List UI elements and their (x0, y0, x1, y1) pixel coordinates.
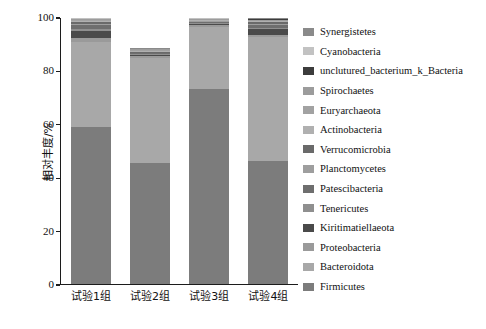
legend-swatch-icon (303, 126, 314, 134)
legend-item-label: Cyanobacteria (320, 46, 381, 57)
legend-swatch-icon (303, 28, 314, 36)
y-tick-label: 20 (0, 226, 54, 237)
legend-item[interactable]: Firmicutes (303, 277, 483, 297)
y-tick-mark (56, 178, 60, 179)
legend-swatch-icon (303, 224, 314, 232)
legend-item-label: unclutured_bacterium_k_Bacteria (320, 65, 463, 76)
legend-item-label: Euryarchaeota (320, 105, 381, 116)
bar-segment (71, 31, 111, 38)
legend-item-label: Bacteroidota (320, 261, 374, 272)
bar-segment (189, 89, 229, 284)
bar-segment (71, 127, 111, 284)
legend-item-label: Spirochaetes (320, 85, 374, 96)
y-tick-label: 80 (0, 65, 54, 76)
bar-segment (71, 42, 111, 128)
legend-item-label: Patescibacteria (320, 183, 383, 194)
bar-column (248, 18, 288, 284)
x-axis-label: 试验3组 (183, 287, 235, 303)
chart-root: 020406080100 相对丰度/% 试验1组试验2组试验3组试验4组 Syn… (0, 0, 486, 329)
legend-item-label: Tenericutes (320, 203, 368, 214)
stacked-bars (61, 18, 298, 284)
legend-swatch-icon (303, 263, 314, 271)
legend-item[interactable]: Spirochaetes (303, 81, 483, 101)
legend-item-label: Verrucomicrobia (320, 144, 391, 155)
legend-swatch-icon (303, 204, 314, 212)
legend-item-label: Actinobacteria (320, 124, 382, 135)
legend-item[interactable]: Tenericutes (303, 198, 483, 218)
y-tick-mark (56, 284, 60, 285)
bar-segment (130, 163, 170, 284)
legend-item[interactable]: Kiritimatiellaeota (303, 218, 483, 238)
legend-item[interactable]: Actinobacteria (303, 120, 483, 140)
legend-item-label: Firmicutes (320, 281, 365, 292)
bar-column (71, 18, 111, 284)
plot-area: 020406080100 相对丰度/% (60, 18, 298, 285)
legend-swatch-icon (303, 145, 314, 153)
y-tick-mark (56, 231, 60, 232)
legend-item[interactable]: Planctomycetes (303, 159, 483, 179)
legend-item[interactable]: Bacteroidota (303, 257, 483, 277)
legend-item[interactable]: Verrucomicrobia (303, 140, 483, 160)
legend-item-label: Synergistetes (320, 26, 376, 37)
legend-item[interactable]: Synergistetes (303, 22, 483, 42)
legend-item-label: Planctomycetes (320, 163, 386, 174)
x-axis-label: 试验4组 (242, 287, 294, 303)
legend-swatch-icon (303, 185, 314, 193)
y-tick-mark (56, 71, 60, 72)
bar-segment (130, 58, 170, 163)
legend-swatch-icon (303, 283, 314, 291)
legend-swatch-icon (303, 165, 314, 173)
legend-item-label: Proteobacteria (320, 242, 381, 253)
legend-item[interactable]: Cyanobacteria (303, 42, 483, 62)
y-axis-label: 相对丰度/% (39, 122, 55, 180)
legend-swatch-icon (303, 67, 314, 75)
legend-item[interactable]: Euryarchaeota (303, 100, 483, 120)
legend-swatch-icon (303, 47, 314, 55)
x-axis-labels: 试验1组试验2组试验3组试验4组 (61, 287, 298, 303)
y-tick-mark (56, 17, 60, 18)
bar-column (130, 18, 170, 284)
bar-column (189, 18, 229, 284)
legend-swatch-icon (303, 87, 314, 95)
bar-segment (189, 27, 229, 89)
x-axis-label: 试验2组 (124, 287, 176, 303)
legend-swatch-icon (303, 106, 314, 114)
legend-item[interactable]: Patescibacteria (303, 179, 483, 199)
bar-segment (248, 37, 288, 161)
x-axis-label: 试验1组 (65, 287, 117, 303)
y-tick-label: 0 (0, 279, 54, 290)
y-tick-label: 100 (0, 12, 54, 23)
chart-legend: SynergistetesCyanobacteriaunclutured_bac… (303, 22, 483, 296)
y-tick-mark (56, 124, 60, 125)
legend-item[interactable]: Proteobacteria (303, 238, 483, 258)
x-axis-line (60, 284, 298, 285)
legend-item[interactable]: unclutured_bacterium_k_Bacteria (303, 61, 483, 81)
legend-swatch-icon (303, 243, 314, 251)
bar-segment (248, 161, 288, 284)
legend-item-label: Kiritimatiellaeota (320, 222, 394, 233)
